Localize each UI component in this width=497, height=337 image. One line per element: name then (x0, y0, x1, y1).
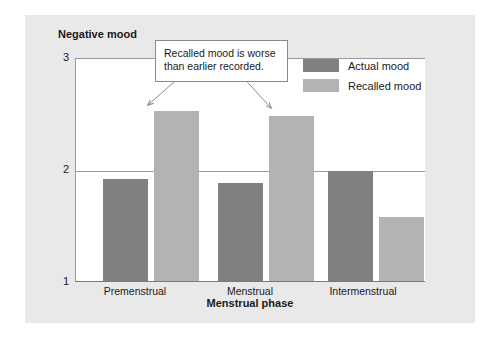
bar-menstrual-actual (218, 183, 263, 281)
y-axis-tick-3: 3 (47, 51, 69, 63)
callout-annotation: Recalled mood is worse than earlier reco… (155, 40, 288, 82)
x-axis-title: Menstrual phase (25, 297, 475, 309)
bar-intermenstrual-recalled (379, 217, 424, 281)
x-axis-tick-premenstrual: Premenstrual (90, 285, 180, 297)
legend-item-actual-mood: Actual mood (303, 59, 421, 72)
bar-intermenstrual-actual (328, 171, 373, 281)
legend-label-actual-mood: Actual mood (348, 60, 409, 72)
chart-legend: Actual mood Recalled mood (303, 59, 421, 99)
callout-line-1: Recalled mood is worse (164, 47, 280, 60)
y-axis-title: Negative mood (58, 28, 137, 40)
x-axis-tick-menstrual: Menstrual (205, 285, 295, 297)
legend-swatch-actual-mood (303, 59, 339, 72)
legend-swatch-recalled-mood (303, 79, 339, 92)
chart-figure-panel: Negative mood 3 2 1 Premenstrual Menstru… (25, 15, 475, 323)
y-axis-tick-1: 1 (47, 275, 69, 287)
bar-premenstrual-recalled (154, 111, 199, 281)
y-axis-tick-2: 2 (47, 163, 69, 175)
x-axis-tick-intermenstrual: Intermenstrual (313, 285, 413, 297)
legend-label-recalled-mood: Recalled mood (348, 80, 421, 92)
bar-premenstrual-actual (103, 179, 148, 281)
legend-item-recalled-mood: Recalled mood (303, 79, 421, 92)
callout-line-2: than earlier recorded. (164, 60, 280, 73)
bar-menstrual-recalled (269, 116, 314, 281)
